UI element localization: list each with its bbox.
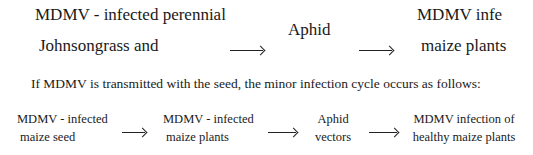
arrow-right-icon: [230, 50, 263, 51]
major-node-3-line-2: maize plants: [421, 36, 506, 56]
major-node-3-line-1: MDMV infect: [417, 5, 502, 25]
minor-node-1-line-1: MDMV - infected: [17, 112, 108, 127]
minor-node-4-line-2: healthy maize plants: [404, 130, 524, 145]
minor-node-2-line-1: MDMV - infected: [163, 112, 254, 127]
arrow-right-icon: [122, 132, 145, 133]
major-node-1-line-1: MDMV - infected perennial: [35, 5, 226, 25]
intro-text: If MDMV is transmitted with the seed, th…: [31, 76, 481, 92]
minor-node-2-line-2: maize plants: [166, 130, 229, 145]
minor-node-3-line-2: vectors: [307, 130, 359, 145]
minor-node-3-line-1: Aphid: [307, 112, 359, 127]
major-node-2-line-1: Aphid: [288, 20, 331, 40]
arrow-right-icon: [359, 50, 392, 51]
arrow-right-icon: [268, 132, 296, 133]
minor-node-4-line-1: MDMV infection of: [404, 112, 524, 127]
minor-node-1-line-2: maize seed: [20, 130, 75, 145]
major-node-1-line-2: Johnsongrass and: [39, 36, 158, 56]
arrow-right-icon: [369, 132, 397, 133]
